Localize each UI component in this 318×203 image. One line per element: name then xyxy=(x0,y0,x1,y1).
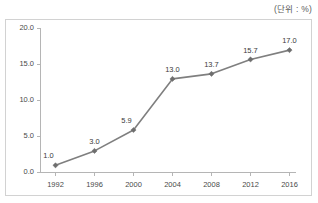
y-tick-label-0: 0.0 xyxy=(24,167,34,176)
data-point-label: 15.7 xyxy=(243,46,258,55)
data-point-marker xyxy=(53,163,58,168)
chart-figure: (단위 : %) 20.0 15.0 10.0 5.0 0.0 1992 xyxy=(0,0,318,203)
x-axis: 1992 1996 2000 2004 2008 2012 2016 xyxy=(41,173,298,190)
x-tick-label-1996: 1996 xyxy=(86,180,103,189)
data-point-label: 5.9 xyxy=(121,116,131,125)
data-point-label: 13.0 xyxy=(165,65,180,74)
y-tick-label-15: 15.0 xyxy=(19,59,34,68)
data-point-label: 3.0 xyxy=(89,137,99,146)
x-tick-label-2016: 2016 xyxy=(281,180,298,189)
x-tick-label-2012: 2012 xyxy=(242,180,259,189)
data-point-label: 1.0 xyxy=(43,151,53,160)
data-point-marker xyxy=(248,57,253,62)
x-tick-label-2004: 2004 xyxy=(164,180,181,189)
y-tick-label-10: 10.0 xyxy=(19,95,34,104)
x-tick-label-2008: 2008 xyxy=(203,180,220,189)
data-point-marker xyxy=(287,48,292,53)
line-chart-svg: 20.0 15.0 10.0 5.0 0.0 1992 1996 2000 20… xyxy=(0,0,318,203)
data-point-label: 17.0 xyxy=(282,36,297,45)
data-point-marker xyxy=(209,71,214,76)
y-tick-label-20: 20.0 xyxy=(19,23,34,32)
x-tick-label-1992: 1992 xyxy=(47,180,64,189)
y-axis: 20.0 15.0 10.0 5.0 0.0 xyxy=(19,23,40,176)
y-tick-label-5: 5.0 xyxy=(24,131,34,140)
data-point-labels: 1.03.05.913.013.715.717.0 xyxy=(43,36,297,160)
x-tick-label-2000: 2000 xyxy=(125,180,142,189)
data-point-label: 13.7 xyxy=(204,60,219,69)
